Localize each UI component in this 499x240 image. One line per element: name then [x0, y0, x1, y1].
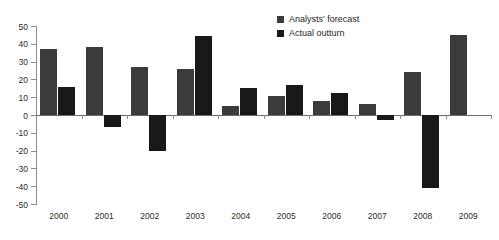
bar-forecast: [268, 96, 285, 115]
bar-chart-figure: Analysts' forecast Actual outturn 504030…: [0, 0, 499, 240]
x-axis-tick: [309, 115, 310, 119]
x-axis-tick: [400, 115, 401, 119]
x-axis-tick: [173, 115, 174, 119]
x-axis-tick: [82, 115, 83, 119]
bar-actual: [58, 87, 75, 115]
bar-forecast: [313, 101, 330, 115]
legend-item-forecast: Analysts' forecast: [277, 13, 359, 26]
x-axis-tick-label: 2002: [127, 212, 173, 221]
bar-forecast: [177, 69, 194, 115]
x-axis-tick: [355, 115, 356, 119]
y-axis-tick-label: -40: [16, 182, 28, 191]
y-axis-tick-label: 20: [19, 76, 28, 85]
x-axis-tick-label: 2009: [446, 212, 492, 221]
x-axis-tick: [36, 115, 37, 119]
bar-forecast: [359, 104, 376, 115]
y-axis-tick-label: 0: [23, 111, 28, 120]
bar-forecast: [222, 106, 239, 115]
bar-forecast: [450, 35, 467, 115]
y-axis-tick-label: 10: [19, 93, 28, 102]
y-axis-tick: -50: [31, 204, 36, 205]
y-axis-tick-label: -50: [16, 200, 28, 209]
bar-forecast: [86, 47, 103, 115]
y-axis-tick-label: 50: [19, 22, 28, 31]
y-axis-tick-label: 30: [19, 58, 28, 67]
bar-actual: [240, 88, 257, 115]
x-axis-tick-label: 2004: [218, 212, 264, 221]
y-axis-tick-label: -10: [16, 129, 28, 138]
x-axis-tick-label: 2006: [309, 212, 355, 221]
x-axis-tick-label: 2008: [400, 212, 446, 221]
bar-actual: [286, 85, 303, 115]
bar-actual: [195, 36, 212, 115]
x-axis-tick-label: 2005: [264, 212, 310, 221]
x-axis-tick-label: 2001: [82, 212, 128, 221]
bar-actual: [377, 115, 394, 120]
bar-forecast: [40, 49, 57, 115]
x-axis-tick-label: 2003: [173, 212, 219, 221]
x-axis-tick-label: 2000: [36, 212, 82, 221]
bar-actual: [422, 115, 439, 188]
bar-actual: [149, 115, 166, 151]
legend-swatch-forecast-icon: [277, 16, 284, 23]
legend-label-forecast: Analysts' forecast: [289, 15, 359, 24]
x-axis-tick: [264, 115, 265, 119]
x-axis-tick: [446, 115, 447, 119]
bar-actual: [331, 93, 348, 115]
bar-forecast: [404, 72, 421, 115]
bar-actual: [104, 115, 121, 127]
x-axis-tick: [491, 115, 492, 119]
x-axis-tick: [218, 115, 219, 119]
x-axis-tick: [127, 115, 128, 119]
x-axis-tick-label: 2007: [355, 212, 401, 221]
y-axis-tick-label: -20: [16, 147, 28, 156]
y-axis-tick-label: 40: [19, 40, 28, 49]
y-axis-tick-label: -30: [16, 165, 28, 174]
bar-forecast: [131, 67, 148, 115]
